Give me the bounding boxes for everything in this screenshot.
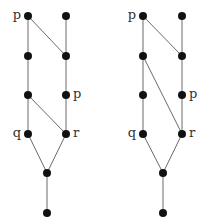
node-label-p: p	[73, 86, 81, 101]
diagram-right-node	[178, 52, 186, 60]
labels-layer: ppqrppqr	[13, 7, 198, 140]
node-label-r: r	[189, 125, 196, 140]
node-label-r: r	[73, 125, 80, 140]
diagram-right-node	[139, 52, 147, 60]
edges-layer	[28, 16, 182, 213]
diagram-left-node	[62, 130, 70, 138]
diagram-left-node	[43, 169, 51, 177]
node-label-q: q	[128, 125, 136, 140]
diagram-right-node	[139, 12, 147, 20]
diagram-left-edge	[28, 134, 47, 173]
node-label-p: p	[128, 7, 136, 22]
diagram-left-edge	[47, 134, 66, 173]
diagram-left-node	[24, 52, 32, 60]
diagram-right-node	[178, 130, 186, 138]
diagram-left-edge	[28, 95, 66, 134]
nodes-layer	[24, 12, 186, 217]
diagram-right-edge	[143, 134, 163, 173]
diagram-right-node	[139, 130, 147, 138]
diagram-left-node	[62, 12, 70, 20]
diagram-left-node	[24, 130, 32, 138]
lattice-diagrams: ppqrppqr	[0, 0, 207, 222]
diagram-right-node	[139, 91, 147, 99]
diagram-left-node	[62, 52, 70, 60]
node-label-q: q	[13, 125, 21, 140]
diagram-left-edge	[28, 16, 66, 56]
node-label-p: p	[189, 86, 197, 101]
diagram-left-node	[24, 12, 32, 20]
diagram-left-node	[24, 91, 32, 99]
diagram-right-node	[159, 169, 167, 177]
diagram-right-node	[178, 12, 186, 20]
diagram-left-node	[62, 91, 70, 99]
diagram-right-edge	[163, 134, 182, 173]
diagram-right-node	[159, 209, 167, 217]
node-label-p: p	[13, 7, 21, 22]
diagram-right-edge	[143, 56, 182, 134]
diagram-right-edge	[143, 16, 182, 56]
diagram-right-node	[178, 91, 186, 99]
diagram-left-node	[43, 209, 51, 217]
